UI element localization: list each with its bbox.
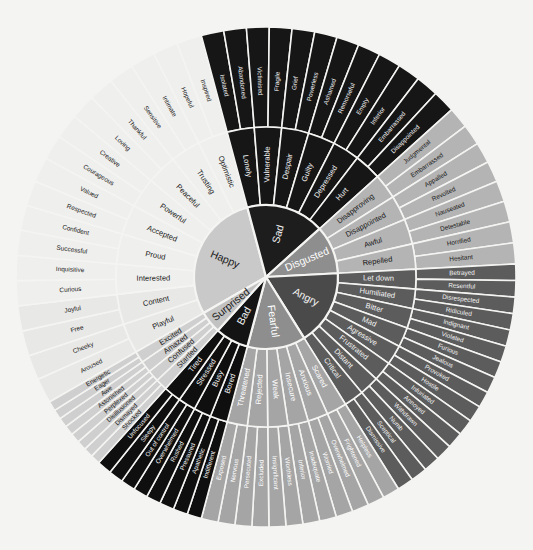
emotion-wheel-stage: ArousedCheekyFreeJoyfulCuriousInquisitiv…	[0, 0, 533, 550]
emotion-wheel-diagram: ArousedCheekyFreeJoyfulCuriousInquisitiv…	[0, 0, 533, 550]
core-emotion-ring	[194, 205, 338, 349]
